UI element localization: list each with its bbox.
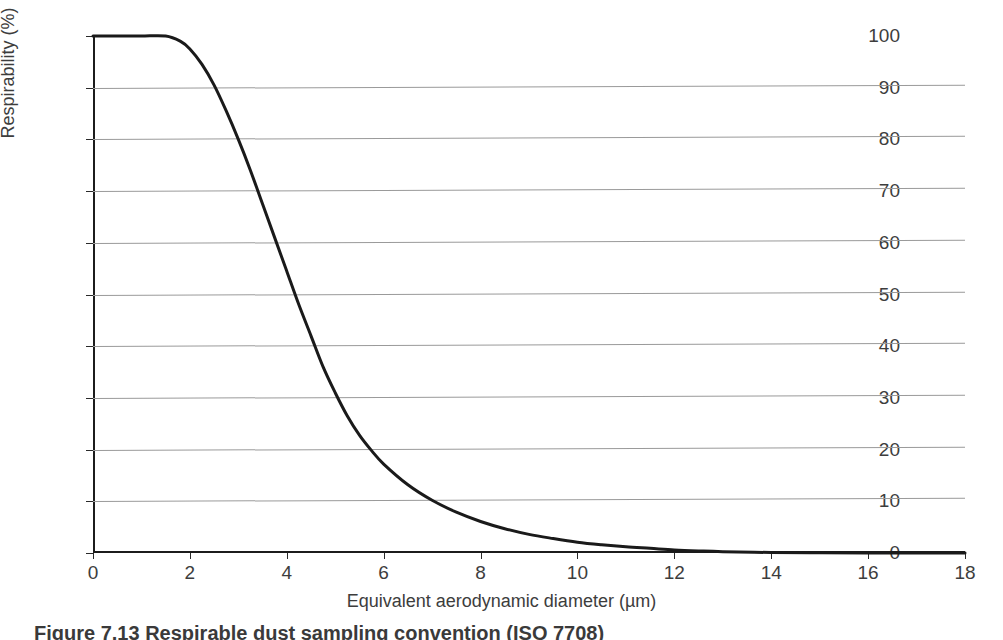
plot-area	[93, 36, 965, 553]
x-axis-tick-label: 10	[547, 563, 607, 582]
x-axis-tick-label: 4	[257, 563, 317, 582]
y-axis-tick	[86, 553, 93, 554]
x-axis-title: Equivalent aerodynamic diameter (µm)	[0, 591, 1003, 612]
x-axis-tick-label: 14	[741, 563, 801, 582]
y-axis-tick	[86, 450, 93, 451]
x-axis-tick-label: 0	[63, 563, 123, 582]
x-axis-tick-label: 6	[354, 563, 414, 582]
x-axis-tick	[190, 553, 191, 559]
data-curve-svg	[93, 36, 965, 553]
y-axis-tick	[86, 398, 93, 399]
x-axis-tick-label: 12	[644, 563, 704, 582]
x-axis-tick-label: 2	[160, 563, 220, 582]
figure-container: 0102030405060708090100 Respirability (%)…	[0, 0, 1003, 640]
y-axis-title: Respirability (%)	[0, 0, 19, 188]
x-axis-tick	[577, 553, 578, 559]
series-line-respirable-convention	[93, 36, 965, 553]
x-axis-tick	[384, 553, 385, 559]
x-axis-tick-label: 8	[451, 563, 511, 582]
x-axis-tick-label: 16	[838, 563, 898, 582]
x-axis-tick	[481, 553, 482, 559]
y-axis-tick	[86, 295, 93, 296]
y-axis-tick	[86, 501, 93, 502]
x-axis-tick-label: 18	[935, 563, 995, 582]
y-axis-tick	[86, 346, 93, 347]
x-axis-tick	[93, 553, 94, 559]
figure-caption: Figure 7.13 Respirable dust sampling con…	[34, 622, 974, 640]
y-axis-tick	[86, 243, 93, 244]
x-axis-tick	[287, 553, 288, 559]
y-axis-tick	[86, 139, 93, 140]
x-axis-tick	[674, 553, 675, 559]
y-axis-tick	[86, 88, 93, 89]
y-axis-tick	[86, 191, 93, 192]
